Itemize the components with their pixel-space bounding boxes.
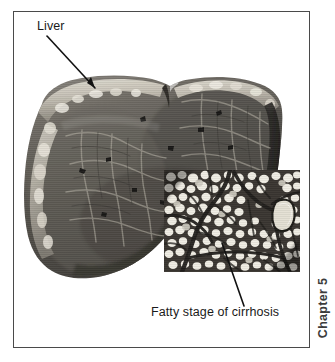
chapter-tab-label: Chapter 5: [316, 278, 330, 338]
label-fatty-stage-of-cirrhosis: Fatty stage of cirrhosis: [151, 306, 279, 319]
fatty-cirrhosis-histology-inset: [164, 170, 300, 272]
chapter-tab: Chapter 5: [311, 268, 335, 348]
label-liver: Liver: [37, 20, 65, 33]
